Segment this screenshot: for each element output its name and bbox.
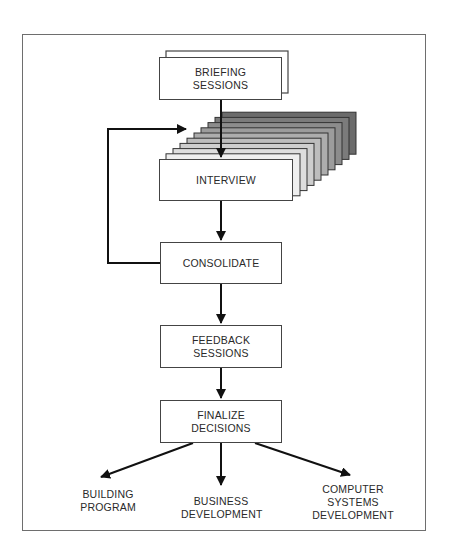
output-computer-systems-development: COMPUTER SYSTEMS DEVELOPMENT — [311, 483, 395, 522]
output-business-development: BUSINESS DEVELOPMENT — [181, 495, 261, 521]
node-consolidate: CONSOLIDATE — [160, 242, 282, 284]
output-label: DEVELOPMENT — [181, 508, 261, 521]
node-interview: INTERVIEW — [159, 159, 293, 201]
arrow-finalize-to-building — [101, 443, 193, 477]
node-label: FEEDBACK — [192, 334, 250, 347]
node-feedback-sessions: FEEDBACK SESSIONS — [160, 325, 282, 368]
output-label: DEVELOPMENT — [311, 509, 395, 522]
node-label: FINALIZE — [197, 409, 245, 422]
output-label: PROGRAM — [78, 501, 138, 514]
node-label: SESSIONS — [193, 347, 248, 360]
output-label: BUILDING — [78, 488, 138, 501]
node-briefing-sessions: BRIEFING SESSIONS — [159, 57, 282, 100]
output-building-program: BUILDING PROGRAM — [78, 488, 138, 514]
arrow-finalize-to-computer — [255, 443, 350, 475]
node-label: CONSOLIDATE — [183, 257, 260, 270]
node-label: SESSIONS — [193, 79, 248, 92]
node-finalize-decisions: FINALIZE DECISIONS — [160, 400, 282, 443]
output-label: SYSTEMS — [311, 496, 395, 509]
output-label: COMPUTER — [311, 483, 395, 496]
node-label: INTERVIEW — [196, 174, 256, 187]
node-label: DECISIONS — [191, 422, 251, 435]
node-label: BRIEFING — [195, 66, 246, 79]
output-label: BUSINESS — [181, 495, 261, 508]
